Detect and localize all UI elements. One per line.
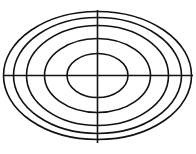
concentric-ellipses-diagram (0, 0, 196, 154)
